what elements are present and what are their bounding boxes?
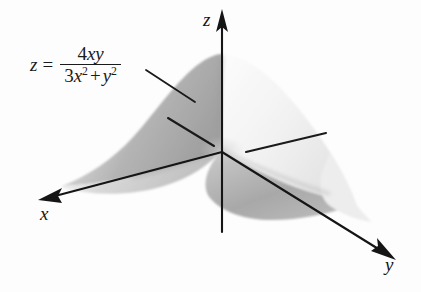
denominator-term1-coefficient: 3 bbox=[64, 65, 74, 86]
denominator-operator: + bbox=[88, 65, 103, 86]
x-axis-label: x bbox=[40, 204, 48, 223]
equation-lhs: z bbox=[30, 55, 42, 74]
surface-plot-figure: z = 4xy 3x2+y2 x y z bbox=[0, 0, 421, 292]
z-axis-label: z bbox=[203, 10, 210, 29]
denominator-term1-variable: x bbox=[74, 65, 82, 86]
denominator-term2-exponent: 2 bbox=[111, 65, 117, 78]
equation-numerator: 4xy bbox=[73, 44, 107, 64]
equation-label: z = 4xy 3x2+y2 bbox=[30, 44, 121, 85]
equation-fraction: 4xy 3x2+y2 bbox=[60, 44, 121, 85]
numerator-coefficient: 4 bbox=[77, 43, 87, 64]
numerator-variables: xy bbox=[87, 43, 104, 64]
denominator-term2-variable: y bbox=[103, 65, 111, 86]
equation-equals-sign: = bbox=[42, 55, 60, 74]
y-axis-label: y bbox=[385, 255, 393, 274]
equation-denominator: 3x2+y2 bbox=[60, 65, 121, 85]
